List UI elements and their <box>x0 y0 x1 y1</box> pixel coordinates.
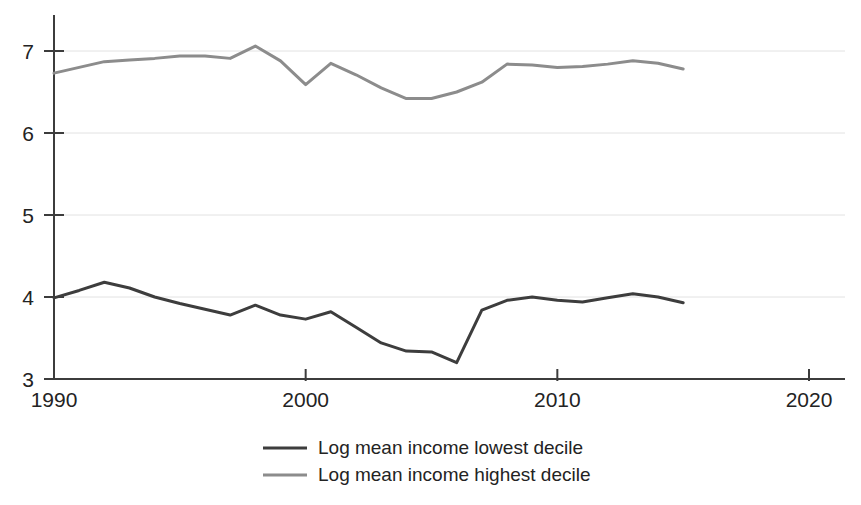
y-tick-label-4: 4 <box>22 286 34 309</box>
x-tick-label-1990: 1990 <box>31 388 78 411</box>
chart-canvas: 34567 1990200020102020 Log mean income l… <box>0 0 861 505</box>
x-tick-label-2010: 2010 <box>534 388 581 411</box>
y-tick-label-6: 6 <box>22 122 34 145</box>
legend-label-1: Log mean income highest decile <box>318 464 591 485</box>
legend-label-0: Log mean income lowest decile <box>318 437 583 458</box>
x-tick-label-2020: 2020 <box>786 388 833 411</box>
line-chart: 34567 1990200020102020 Log mean income l… <box>0 0 861 505</box>
x-tick-label-2000: 2000 <box>282 388 329 411</box>
y-tick-label-5: 5 <box>22 204 34 227</box>
y-tick-label-7: 7 <box>22 40 34 63</box>
chart-background <box>0 0 861 505</box>
